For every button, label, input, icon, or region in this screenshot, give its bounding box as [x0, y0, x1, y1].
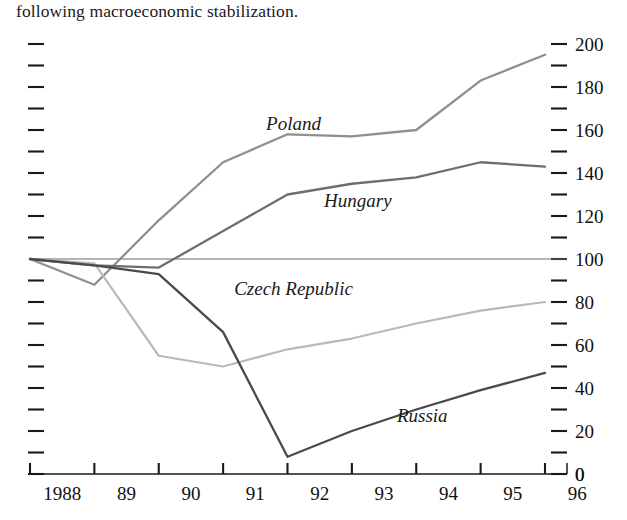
- right-axis-tick-label: 200: [575, 34, 604, 55]
- x-axis-tick-label: 95: [503, 483, 522, 504]
- x-axis-tick-label: 93: [375, 483, 394, 504]
- right-axis-tick-label: 120: [575, 206, 604, 227]
- x-axis-tick-label: 96: [568, 483, 587, 504]
- series-label-group: PolandHungaryCzech RepublicRussia: [234, 113, 447, 426]
- right-axis-tick-label: 140: [575, 163, 604, 184]
- right-axis-tick-label: 80: [575, 292, 594, 313]
- right-axis-tick-label: 180: [575, 77, 604, 98]
- x-axis-tick-label: 94: [439, 483, 459, 504]
- x-axis-tick-label: 92: [310, 483, 329, 504]
- right-axis-zero-label: 0: [575, 464, 585, 485]
- right-axis-tick-label: 100: [575, 249, 604, 270]
- x-axis-label-group: 19888990919293949596: [43, 483, 587, 504]
- series-label-russia: Russia: [396, 405, 448, 426]
- x-axis-tick-label: 91: [246, 483, 265, 504]
- right-axis-tick-label: 40: [575, 378, 594, 399]
- x-axis-tick-label: 90: [181, 483, 200, 504]
- series-line-hungary: [30, 162, 545, 267]
- right-axis-tick-label: 60: [575, 335, 594, 356]
- x-axis-tick-group: [30, 463, 545, 474]
- series-label-hungary: Hungary: [323, 190, 392, 211]
- x-axis-tick-label: 89: [117, 483, 136, 504]
- series-line-czech-republic: [30, 259, 545, 367]
- right-axis-label-group: 020406080100120140160180200: [575, 34, 604, 485]
- series-line-poland: [30, 55, 545, 285]
- axis-frame-group: 0: [30, 463, 585, 485]
- series-label-czech-republic: Czech Republic: [234, 278, 353, 299]
- line-chart-figure: 020406080100120140160180200 198889909192…: [0, 0, 627, 520]
- x-axis-tick-label: 1988: [43, 483, 81, 504]
- chart-canvas: 020406080100120140160180200 198889909192…: [0, 0, 627, 520]
- right-axis-tick-label: 160: [575, 120, 604, 141]
- right-axis-tick-label: 20: [575, 421, 594, 442]
- series-label-poland: Poland: [265, 113, 321, 134]
